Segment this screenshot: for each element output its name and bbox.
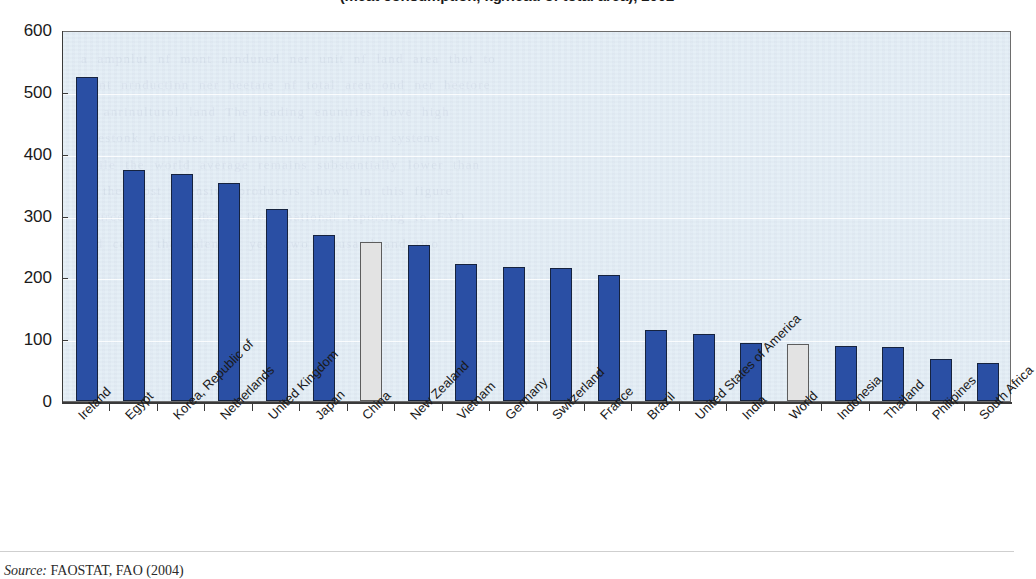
chart-title: (meat consumption, kg/head of total area… — [0, 0, 1014, 4]
gridline — [63, 218, 1010, 219]
x-tick-mark — [157, 404, 158, 411]
x-tick-mark — [299, 404, 300, 411]
ghost-text-line: a ampnlut nf mont nrnduned ner unit nf l… — [81, 46, 992, 72]
y-tick-mark-300 — [62, 217, 68, 218]
bar-ireland — [76, 77, 98, 401]
y-tick-label-400: 400 — [0, 145, 52, 165]
paper-texture — [63, 32, 1010, 401]
y-tick-label-100: 100 — [0, 330, 52, 350]
x-tick-mark — [964, 404, 965, 411]
x-tick-mark — [489, 404, 490, 411]
y-tick-label-600: 600 — [0, 21, 52, 41]
ghost-text-line: ment nrnductinn ner heetare nf total are… — [81, 72, 992, 98]
bar-france — [598, 275, 620, 401]
x-tick-mark — [679, 404, 680, 411]
x-tick-mark — [726, 404, 727, 411]
bar-germany — [503, 267, 525, 401]
ghost-text-line: livestonk densities and intensive produc… — [81, 125, 992, 151]
x-tick-mark — [252, 404, 253, 411]
source-text: FAOSTAT, FAO (2004) — [47, 563, 184, 578]
bar-korea-republic-of — [171, 174, 193, 401]
x-tick-mark — [347, 404, 348, 411]
gridline — [63, 341, 1010, 342]
gridline — [63, 156, 1010, 157]
plot-area: a ampnlut nf mont nrnduned ner unit nf l… — [62, 31, 1011, 402]
source-note: Source: FAOSTAT, FAO (2004) — [4, 563, 184, 579]
bar-china — [360, 242, 382, 401]
y-tick-label-200: 200 — [0, 268, 52, 288]
bar-egypt — [123, 170, 145, 401]
source-label: Source: — [4, 563, 47, 578]
x-tick-mark — [109, 404, 110, 411]
x-tick-mark — [584, 404, 585, 411]
background-ghost-text: a ampnlut nf mont nrnduned ner unit nf l… — [63, 32, 1010, 401]
y-tick-mark-400 — [62, 155, 68, 156]
y-tick-label-300: 300 — [0, 207, 52, 227]
x-tick-mark — [869, 404, 870, 411]
x-tick-mark — [204, 404, 205, 411]
y-tick-mark-500 — [62, 93, 68, 94]
ghost-text-line: nf anrinulturol land The leading enuntri… — [81, 99, 992, 125]
bar-switzerland — [550, 268, 572, 401]
y-tick-label-500: 500 — [0, 83, 52, 103]
x-tick-mark — [394, 404, 395, 411]
y-tick-mark-200 — [62, 278, 68, 279]
x-tick-mark — [774, 404, 775, 411]
gridline — [63, 279, 1010, 280]
bar-new-zealand — [408, 245, 430, 401]
y-tick-label-0: 0 — [0, 392, 52, 412]
gridline — [63, 94, 1010, 95]
y-tick-mark-100 — [62, 340, 68, 341]
footer-divider — [0, 551, 1014, 552]
x-tick-mark — [916, 404, 917, 411]
x-tick-mark — [821, 404, 822, 411]
x-tick-mark — [631, 404, 632, 411]
x-tick-mark — [537, 404, 538, 411]
x-tick-mark — [442, 404, 443, 411]
